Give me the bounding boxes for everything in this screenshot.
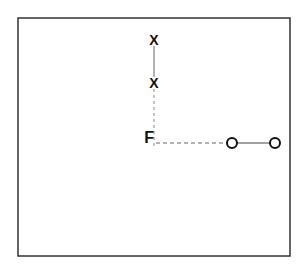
x-marker-middle: X xyxy=(149,76,158,90)
origin-label-f: F xyxy=(144,130,154,146)
circle-marker-1 xyxy=(227,138,237,148)
circle-marker-2 xyxy=(270,138,280,148)
x-marker-top: X xyxy=(149,33,158,47)
